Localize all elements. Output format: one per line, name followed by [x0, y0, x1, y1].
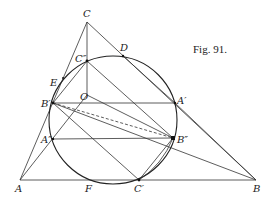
- line-o-b2: [87, 95, 173, 138]
- point-c1: [138, 179, 141, 182]
- line-a2-b2: [53, 138, 173, 139]
- label-c1: C′: [134, 183, 145, 194]
- label-o: O: [80, 91, 88, 102]
- label-c: C: [83, 8, 91, 19]
- line-c2-b2: [87, 61, 173, 138]
- point-a1: [174, 102, 176, 104]
- point-b2: [171, 136, 175, 140]
- label-b2: B″: [176, 134, 188, 145]
- geometry-figure: C D C″ E O B′ A′ A″ B″ A F C′ B Fig. 91.: [0, 0, 280, 203]
- side-ac: [20, 22, 87, 180]
- point-a2: [52, 138, 54, 140]
- line-d-a1: [123, 56, 175, 103]
- circle: [49, 56, 177, 184]
- point-d: [122, 55, 124, 57]
- label-f: F: [84, 183, 93, 194]
- label-e: E: [49, 77, 58, 88]
- line-o-a: [20, 95, 87, 180]
- label-c2: C″: [75, 53, 87, 64]
- label-d: D: [119, 42, 128, 53]
- label-a1: A′: [176, 95, 187, 106]
- point-e: [62, 77, 64, 79]
- figure-caption: Fig. 91.: [193, 43, 227, 55]
- line-c1-b2: [139, 138, 173, 180]
- label-a: A: [14, 183, 22, 194]
- labels: C D C″ E O B′ A′ A″ B″ A F C′ B: [14, 8, 260, 194]
- label-b: B: [252, 183, 260, 194]
- label-a2: A″: [40, 134, 52, 145]
- label-b1: B′: [40, 98, 51, 109]
- point-b1: [52, 102, 55, 105]
